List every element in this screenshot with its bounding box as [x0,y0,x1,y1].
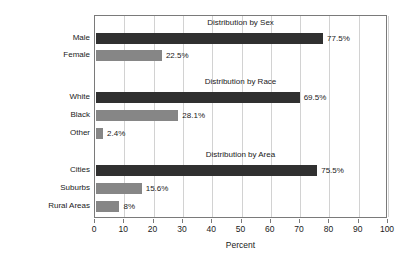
category-label: Suburbs [2,182,94,193]
x-tick-label: 80 [324,224,333,234]
gridline [388,16,389,217]
x-tick-label: 50 [236,224,245,234]
x-axis-title: Percent [94,240,387,250]
x-tick-label: 20 [148,224,157,234]
category-label: Male [2,32,94,43]
bar-value-label: 77.5% [327,33,350,44]
x-tick-mark [153,219,154,223]
bar [96,183,142,194]
plot-area: 77.5%22.5%69.5%28.1%2.4%75.5%15.6%8% Dis… [94,15,387,218]
group-title: Distribution by Sex [95,18,386,27]
x-tick-mark [387,219,388,223]
category-label: Other [2,127,94,138]
category-label: Cities [2,164,94,175]
bar-value-label: 75.5% [321,165,344,176]
x-axis: 0102030405060708090100 [94,219,387,237]
x-tick-mark [94,219,95,223]
bar [96,92,300,103]
x-tick-mark [211,219,212,223]
x-tick-label: 70 [294,224,303,234]
x-tick-mark [241,219,242,223]
bar-value-label: 28.1% [182,110,205,121]
gridline [242,16,243,217]
gridline [212,16,213,217]
chart-page: MaleFemaleWhiteBlackOtherCitiesSuburbsRu… [0,0,405,264]
x-tick-label: 100 [380,224,394,234]
x-tick-label: 60 [265,224,274,234]
x-tick-label: 90 [353,224,362,234]
x-tick-mark [182,219,183,223]
x-tick-mark [358,219,359,223]
gridline [271,16,272,217]
gridline [359,16,360,217]
category-label: Black [2,109,94,120]
x-tick-mark [328,219,329,223]
x-tick-label: 0 [92,224,97,234]
bar-value-label: 69.5% [304,92,327,103]
bar [96,165,317,176]
bar [96,110,178,121]
bar [96,128,103,139]
x-tick-mark [123,219,124,223]
category-axis-labels: MaleFemaleWhiteBlackOtherCitiesSuburbsRu… [0,15,94,218]
category-label: Female [2,49,94,60]
group-title: Distribution by Area [95,150,386,159]
gridline [329,16,330,217]
bar [96,33,323,44]
x-tick-label: 40 [206,224,215,234]
gridline [300,16,301,217]
bar [96,50,162,61]
group-title: Distribution by Race [95,77,386,86]
x-tick-mark [270,219,271,223]
bar-value-label: 15.6% [146,183,169,194]
x-tick-mark [299,219,300,223]
bar-value-label: 8% [123,201,135,212]
bar-value-label: 2.4% [107,128,125,139]
bar [96,201,119,212]
x-tick-label: 30 [177,224,186,234]
category-label: Rural Areas [2,200,94,211]
bar-value-label: 22.5% [166,50,189,61]
x-tick-label: 10 [119,224,128,234]
category-label: White [2,91,94,102]
